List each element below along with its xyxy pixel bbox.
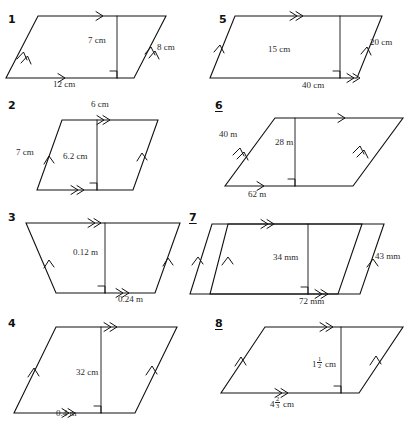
right-angle-mark-1 [110, 71, 117, 78]
figure-3-base-label: 0.24 m [118, 295, 143, 304]
figure-8-base-label: 423 cm [270, 396, 294, 410]
right-angle-mark-7 [301, 287, 308, 294]
right-angle-mark-8 [334, 386, 341, 393]
left-side-arrow-7b [222, 257, 233, 265]
parallelogram-outline-5 [210, 16, 382, 78]
figure-3-height-label: 0.12 m [73, 248, 98, 257]
figure-8-base-fraction: 23 [275, 396, 280, 410]
figure-8-height-whole: 1 [312, 359, 317, 369]
figure-2-side-label: 7 cm [16, 148, 34, 157]
right-angle-mark-6 [288, 179, 295, 186]
right-angle-mark-3 [98, 286, 105, 293]
figure-8-height-unit: cm [325, 359, 336, 369]
figure-7-height-label: 34 mm [273, 253, 298, 262]
figure-8-height-label: 112 cm [312, 356, 336, 370]
left-side-arrow-6a [233, 148, 244, 156]
right-side-arrow-4 [146, 366, 157, 375]
figure-6-side-label: 40 m [219, 130, 237, 139]
figure-5-height-label: 15 cm [268, 45, 290, 54]
figure-8-base-denominator: 3 [275, 403, 280, 409]
figure-1-height-label: 7 cm [88, 36, 106, 45]
parallelogram-outline-1 [6, 16, 166, 78]
figure-4-base-label: 0.4 m [56, 409, 77, 418]
figure-1-side-label: 8 cm [157, 43, 175, 52]
left-side-arrow-3 [44, 260, 54, 268]
figure-8-diagram [207, 312, 414, 424]
figure-7-side-label: 43 mm [375, 252, 400, 261]
left-side-arrow-6b [237, 152, 248, 160]
right-angle-mark-5 [333, 71, 340, 78]
right-angle-mark-2 [90, 183, 97, 190]
figure-6-base-label: 62 m [248, 190, 266, 199]
figure-8-height-denominator: 2 [317, 363, 322, 369]
right-side-arrow-8 [370, 356, 381, 365]
parallelogram-outline-2 [37, 120, 158, 190]
figure-1-base-label: 12 cm [53, 80, 75, 89]
figure-3-diagram [0, 210, 200, 306]
figure-8-base-whole: 4 [270, 399, 275, 409]
figure-8-base-unit: cm [283, 399, 294, 409]
figure-8-height-fraction: 12 [317, 356, 322, 370]
figure-5-side-label: 20 cm [370, 38, 392, 47]
right-angle-mark-4 [94, 406, 101, 413]
right-side-arrow-6b [357, 150, 368, 158]
figure-5-base-label: 40 cm [302, 81, 324, 90]
figure-2-base-top-label: 6 cm [91, 100, 109, 109]
worksheet-page: 1 7 cm 12 cm 8 cm 5 [0, 0, 414, 437]
figure-2-height-label: 6.2 cm [63, 152, 88, 161]
parallelogram-outline-6 [225, 118, 403, 186]
figure-4-height-label: 32 cm [76, 368, 98, 377]
right-side-arrow-1b [149, 51, 159, 59]
figure-4-diagram [0, 312, 200, 424]
parallelogram-outline-3 [26, 223, 180, 293]
right-side-arrow-6a [353, 146, 364, 154]
figure-7-base-label: 72 mm [299, 297, 324, 306]
left-side-arrow-1b [21, 56, 31, 64]
figure-6-height-label: 28 m [275, 138, 293, 147]
figure-6-diagram [207, 104, 414, 200]
